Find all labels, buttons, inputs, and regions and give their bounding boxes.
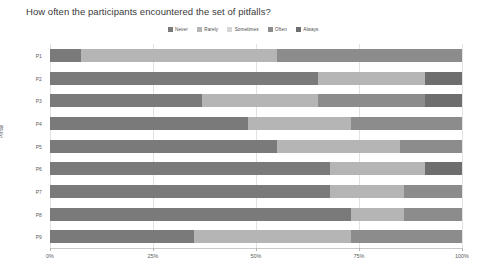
y-tick-label: P3 <box>0 98 42 104</box>
legend-swatch-icon <box>227 27 232 32</box>
bar-segment[interactable] <box>330 162 425 175</box>
bar-row[interactable] <box>50 117 462 130</box>
legend-label: Never <box>175 27 188 32</box>
bar-segment[interactable] <box>202 94 317 107</box>
x-tick-label: 75% <box>354 253 365 259</box>
legend-label: Rarely <box>204 27 218 32</box>
legend-swatch-icon <box>168 27 173 32</box>
bar-segment[interactable] <box>50 208 351 221</box>
y-tick-label: P5 <box>0 144 42 150</box>
chart-title: How often the participants encountered t… <box>26 6 271 17</box>
x-tick-label: 50% <box>251 253 262 259</box>
y-tick-label: P2 <box>0 76 42 82</box>
legend-item[interactable]: Rarely <box>197 27 218 32</box>
x-tick-label: 0% <box>46 253 54 259</box>
bar-segment[interactable] <box>50 49 81 62</box>
x-tick-mark <box>462 248 463 251</box>
bar-segment[interactable] <box>425 94 462 107</box>
legend-item[interactable]: Sometimes <box>227 27 258 32</box>
bar-segment[interactable] <box>50 117 248 130</box>
bar-row[interactable] <box>50 140 462 153</box>
legend-swatch-icon <box>268 27 273 32</box>
bar-segment[interactable] <box>351 117 462 130</box>
y-tick-label: P1 <box>0 53 42 59</box>
x-tick-mark <box>50 248 51 251</box>
bar-segment[interactable] <box>318 94 425 107</box>
bar-segment[interactable] <box>248 117 351 130</box>
bar-segment[interactable] <box>277 140 401 153</box>
legend-item[interactable]: Often <box>268 27 287 32</box>
y-tick-label: P4 <box>0 121 42 127</box>
legend-label: Always <box>303 27 318 32</box>
y-tick-label: P7 <box>0 189 42 195</box>
legend-swatch-icon <box>197 27 202 32</box>
bar-segment[interactable] <box>50 185 330 198</box>
x-tick-label: 25% <box>148 253 159 259</box>
bar-segment[interactable] <box>194 230 351 243</box>
x-tick-mark <box>359 248 360 251</box>
bar-segment[interactable] <box>50 230 194 243</box>
bar-row[interactable] <box>50 49 462 62</box>
bar-segment[interactable] <box>330 185 404 198</box>
bar-segment[interactable] <box>351 230 462 243</box>
bar-segment[interactable] <box>425 72 462 85</box>
bar-segment[interactable] <box>277 49 462 62</box>
bar-segment[interactable] <box>81 49 277 62</box>
stacked-bar-chart: How often the participants encountered t… <box>0 0 486 279</box>
chart-legend: NeverRarelySometimesOftenAlways <box>0 27 486 32</box>
bar-segment[interactable] <box>404 208 462 221</box>
bar-row[interactable] <box>50 94 462 107</box>
bar-row[interactable] <box>50 230 462 243</box>
legend-label: Often <box>275 27 287 32</box>
bar-segment[interactable] <box>50 162 330 175</box>
bar-row[interactable] <box>50 208 462 221</box>
bar-segment[interactable] <box>50 140 277 153</box>
y-tick-label: P8 <box>0 212 42 218</box>
legend-item[interactable]: Always <box>296 27 319 32</box>
bar-segment[interactable] <box>425 162 462 175</box>
bar-segment[interactable] <box>404 185 462 198</box>
bar-row[interactable] <box>50 162 462 175</box>
gridline <box>462 44 463 248</box>
y-tick-label: P9 <box>0 234 42 240</box>
legend-swatch-icon <box>296 27 301 32</box>
bar-segment[interactable] <box>50 94 202 107</box>
bar-row[interactable] <box>50 72 462 85</box>
x-tick-mark <box>153 248 154 251</box>
legend-item[interactable]: Never <box>168 27 188 32</box>
x-tick-mark <box>256 248 257 251</box>
plot-area <box>50 44 462 248</box>
bar-segment[interactable] <box>318 72 425 85</box>
bar-segment[interactable] <box>400 140 462 153</box>
legend-label: Sometimes <box>235 27 259 32</box>
bar-segment[interactable] <box>351 208 405 221</box>
bar-segment[interactable] <box>50 72 318 85</box>
bar-row[interactable] <box>50 185 462 198</box>
x-tick-label: 100% <box>455 253 469 259</box>
y-tick-label: P6 <box>0 166 42 172</box>
